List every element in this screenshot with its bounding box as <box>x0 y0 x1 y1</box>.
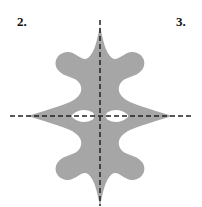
symmetric-shape-figure <box>0 0 202 207</box>
